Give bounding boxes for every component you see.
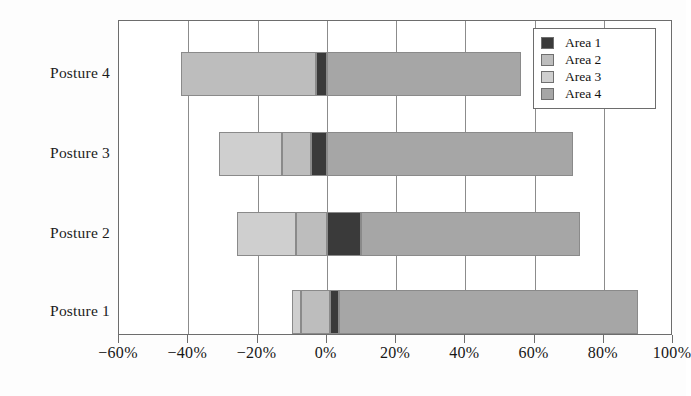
- x-axis-tick-label: −60%: [98, 344, 138, 362]
- x-axis-tick-label: 100%: [653, 344, 691, 362]
- legend-item-area-3: Area 3: [541, 68, 648, 85]
- x-axis-tick: [187, 335, 188, 343]
- legend-item-area-1: Area 1: [541, 34, 648, 51]
- bar-row: [119, 212, 671, 256]
- legend-swatch-icon: [541, 54, 554, 66]
- x-axis-tick-label: 20%: [380, 344, 410, 362]
- x-axis-tick: [257, 335, 258, 343]
- bar-segment: [292, 290, 301, 334]
- bar-row: [119, 132, 671, 176]
- bar-segment: [327, 212, 362, 256]
- bar-segment: [339, 290, 639, 334]
- y-axis-label-posture-4: Posture 4: [0, 64, 110, 82]
- y-axis-label-posture-2: Posture 2: [0, 224, 110, 242]
- legend-swatch-icon: [541, 88, 554, 100]
- legend-label: Area 2: [565, 52, 601, 68]
- x-axis-tick: [672, 335, 673, 343]
- x-axis-tick: [603, 335, 604, 343]
- bar-segment: [181, 52, 316, 96]
- bar-segment: [316, 52, 326, 96]
- bar-segment: [282, 132, 311, 176]
- x-axis-tick: [464, 335, 465, 343]
- y-axis-label-posture-3: Posture 3: [0, 144, 110, 162]
- legend-item-area-2: Area 2: [541, 51, 648, 68]
- legend-swatch-icon: [541, 71, 554, 83]
- bar-segment: [330, 290, 339, 334]
- bar-segment: [301, 290, 330, 334]
- x-axis-tick: [534, 335, 535, 343]
- x-axis-tick-label: 80%: [588, 344, 618, 362]
- legend-item-area-4: Area 4: [541, 85, 648, 102]
- x-axis-tick-label: −40%: [167, 344, 207, 362]
- legend-label: Area 4: [565, 86, 601, 102]
- bar-segment: [237, 212, 296, 256]
- legend-swatch-icon: [541, 37, 554, 49]
- bar-segment: [311, 132, 327, 176]
- x-axis-tick-label: 40%: [449, 344, 479, 362]
- y-axis-label-posture-1: Posture 1: [0, 302, 110, 320]
- x-axis-tick: [395, 335, 396, 343]
- bar-segment: [327, 52, 521, 96]
- legend: Area 1Area 2Area 3Area 4: [533, 28, 656, 109]
- x-axis-tick: [118, 335, 119, 343]
- bar-segment: [219, 132, 281, 176]
- legend-label: Area 3: [565, 69, 601, 85]
- x-axis-tick: [326, 335, 327, 343]
- bar-segment: [296, 212, 327, 256]
- x-axis-tick-label: −20%: [237, 344, 277, 362]
- bar-segment: [327, 132, 573, 176]
- x-axis-tick-label: 0%: [315, 344, 337, 362]
- x-axis-tick-label: 60%: [518, 344, 548, 362]
- legend-label: Area 1: [565, 35, 601, 51]
- bar-segment: [361, 212, 579, 256]
- y-axis-labels: Posture 4Posture 3Posture 2Posture 1: [0, 20, 118, 340]
- x-axis-tick-labels: −60%−40%−20%0%20%40%60%80%100%: [0, 344, 686, 372]
- bar-row: [119, 290, 671, 334]
